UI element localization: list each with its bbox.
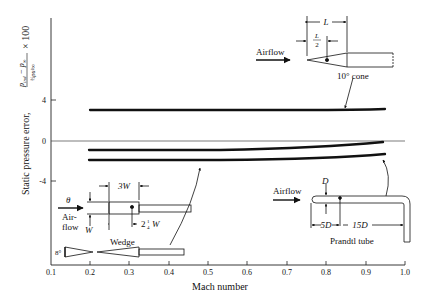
x-tick-label: 0.5: [203, 268, 213, 277]
wedge-quarter-num: 1: [147, 219, 150, 224]
wedge-W-label: W: [85, 225, 94, 235]
cone-label: 10° cone: [337, 71, 369, 81]
prandtl-sketch: [273, 160, 410, 242]
x-tick-label: 0.8: [321, 268, 331, 277]
y-axis-title-prefix: Static pressure error,: [20, 112, 31, 195]
prandtl-5D-label: 5D: [321, 220, 333, 230]
y-axis-title-suffix: × 100: [20, 26, 31, 49]
prandtl-D-label: D: [321, 176, 329, 186]
cone-L-half-den: 2: [315, 41, 319, 49]
cone-L-label: L: [322, 17, 328, 27]
x-tick-label: 0.7: [282, 268, 292, 277]
y-axis-fraction-denominator: ½ρu²∞: [30, 64, 36, 81]
wedge-3W-label: 3W: [117, 181, 132, 191]
x-tick-label: 0.4: [164, 268, 174, 277]
x-tick-label: 0.6: [242, 268, 252, 277]
prandtl-label: Prandtl tube: [330, 236, 374, 246]
y-axis-title: Static pressure error, pind − p∞ ½ρu²∞ ×…: [17, 26, 36, 195]
wedge-label: Wedge: [110, 237, 135, 247]
x-tick-label: 0.2: [85, 268, 95, 277]
cone-L-half-num: L: [314, 32, 319, 40]
x-tick-label: 0.9: [361, 268, 371, 277]
series-cone: [90, 109, 385, 110]
wedge-W2-label: W: [152, 219, 161, 229]
wedge-flow-label: flow: [62, 222, 79, 232]
y-tick-label: -4: [39, 177, 46, 186]
wedge-angle-label: 8°: [55, 249, 62, 257]
x-tick-label: 0.3: [124, 268, 134, 277]
prandtl-airflow-label: Airflow: [273, 186, 302, 196]
wedge-theta-label: θ: [66, 195, 71, 205]
wedge-quarter-den: 4: [147, 225, 150, 230]
series-wedge: [89, 142, 383, 150]
x-tick-label: 0.1: [46, 268, 56, 277]
cone-airflow-label: Airflow: [256, 47, 285, 57]
y-tick-label: 0: [42, 137, 46, 146]
x-ticks: 0.1 0.2 0.3 0.4 0.5 0.6 0.7 0.8 0.9 1.0: [46, 261, 410, 277]
x-tick-label: 1.0: [400, 268, 410, 277]
cone-sketch: [256, 16, 393, 108]
y-axis-fraction-numerator: pind − p∞: [17, 59, 27, 88]
series-prandtl: [89, 154, 385, 160]
chart: 4 0 -4 0.1 0.2 0.3 0.4 0.5 0.6 0.7 0.8 0…: [0, 0, 430, 303]
series: [89, 109, 385, 160]
wedge-2-label: 2: [141, 219, 146, 229]
y-tick-label: 4: [42, 96, 46, 105]
prandtl-15D-label: 15D: [352, 220, 368, 230]
wedge-air-label: Air-: [62, 212, 77, 222]
x-axis-title: Mach number: [192, 281, 248, 292]
